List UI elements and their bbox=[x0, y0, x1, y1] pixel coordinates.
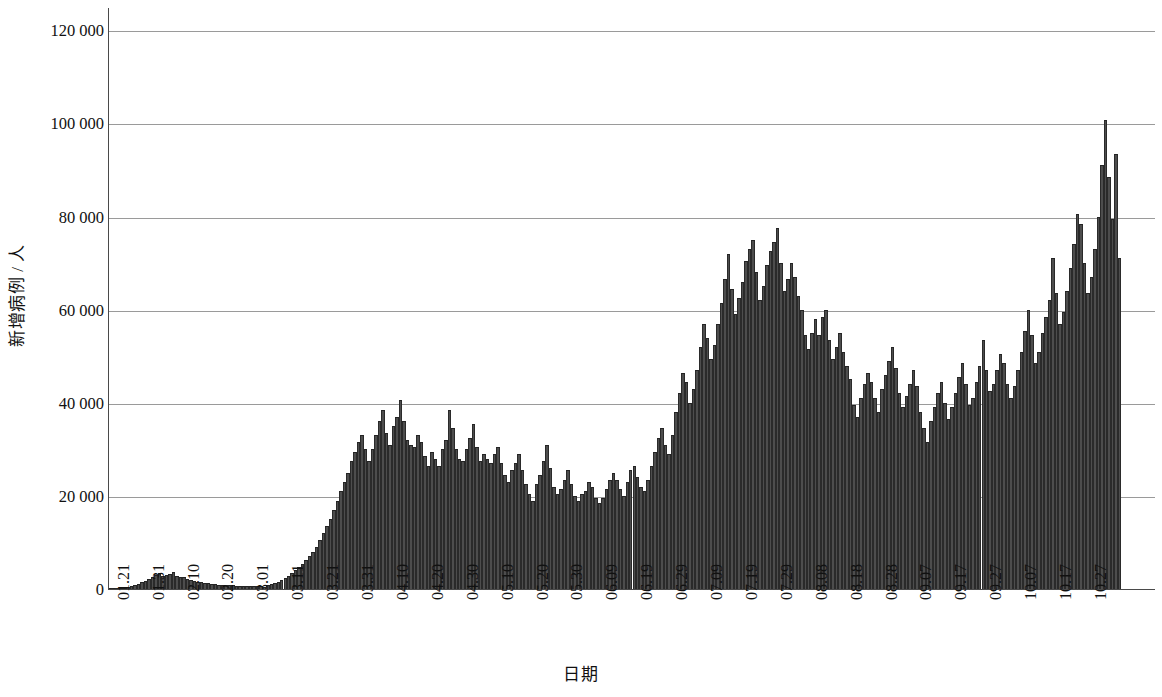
x-axis-tick-label: 05.20 bbox=[535, 564, 551, 600]
y-axis-tick-label: 40 000 bbox=[26, 396, 104, 413]
x-axis-tick-label: 04.30 bbox=[465, 564, 481, 600]
x-axis-tick-label: 02.10 bbox=[186, 564, 202, 600]
x-axis-tick-label: 09.27 bbox=[988, 564, 1004, 600]
x-axis-tick-label: 04.10 bbox=[395, 564, 411, 600]
x-axis-tick-label: 06.09 bbox=[604, 564, 620, 600]
x-axis-tick-label: 10.17 bbox=[1058, 564, 1074, 600]
y-axis-title-text: 新增病例 / 人 bbox=[3, 244, 28, 346]
x-axis-tick-label: 09.07 bbox=[918, 564, 934, 600]
x-axis-tick-label: 08.18 bbox=[849, 564, 865, 600]
x-axis-tick-label: 02.20 bbox=[220, 564, 236, 600]
x-axis-tick-label: 09.17 bbox=[953, 564, 969, 600]
x-axis-tick-label: 07.29 bbox=[779, 564, 795, 600]
x-axis-tick-label: 03.11 bbox=[290, 565, 306, 600]
x-axis-tick-label: 07.19 bbox=[744, 564, 760, 600]
y-axis-tick-label: 100 000 bbox=[26, 116, 104, 133]
x-axis-tick-label: 10.07 bbox=[1023, 564, 1039, 600]
x-axis-tick-label: 01.21 bbox=[116, 564, 132, 600]
y-axis-tick-label: 20 000 bbox=[26, 489, 104, 506]
bar bbox=[1118, 258, 1121, 589]
y-axis-tick-label: 0 bbox=[26, 582, 104, 599]
plot-area bbox=[108, 8, 1155, 590]
x-axis-title: 日期 bbox=[0, 660, 1162, 685]
x-axis-tick-label: 04.20 bbox=[430, 564, 446, 600]
y-axis-tick-label: 80 000 bbox=[26, 209, 104, 226]
x-axis-tick-label: 01.31 bbox=[151, 564, 167, 600]
x-axis-tick-label: 06.19 bbox=[639, 564, 655, 600]
x-axis-tick-label: 07.09 bbox=[709, 564, 725, 600]
covid-daily-cases-chart: 新增病例 / 人 020 00040 00060 00080 000100 00… bbox=[0, 0, 1162, 697]
x-axis-tick-label: 08.08 bbox=[814, 564, 830, 600]
y-axis-tick-labels: 020 00040 00060 00080 000100 000120 000 bbox=[26, 0, 104, 598]
x-axis-tick-label: 05.30 bbox=[569, 564, 585, 600]
y-axis-tick-label: 60 000 bbox=[26, 302, 104, 319]
x-axis-tick-label: 03.21 bbox=[325, 564, 341, 600]
x-axis-tick-labels: 01.2101.3102.1002.2003.0103.1103.2103.31… bbox=[108, 592, 1155, 654]
x-axis-tick-label: 06.29 bbox=[674, 564, 690, 600]
x-axis-tick-label: 03.31 bbox=[360, 564, 376, 600]
y-axis-tick-label: 120 000 bbox=[26, 23, 104, 40]
x-axis-tick-label: 08.28 bbox=[884, 564, 900, 600]
x-axis-tick-label: 03.01 bbox=[255, 564, 271, 600]
x-axis-tick-label: 10.27 bbox=[1093, 564, 1109, 600]
bars-layer bbox=[109, 8, 1155, 589]
x-axis-tick-label: 05.10 bbox=[500, 564, 516, 600]
